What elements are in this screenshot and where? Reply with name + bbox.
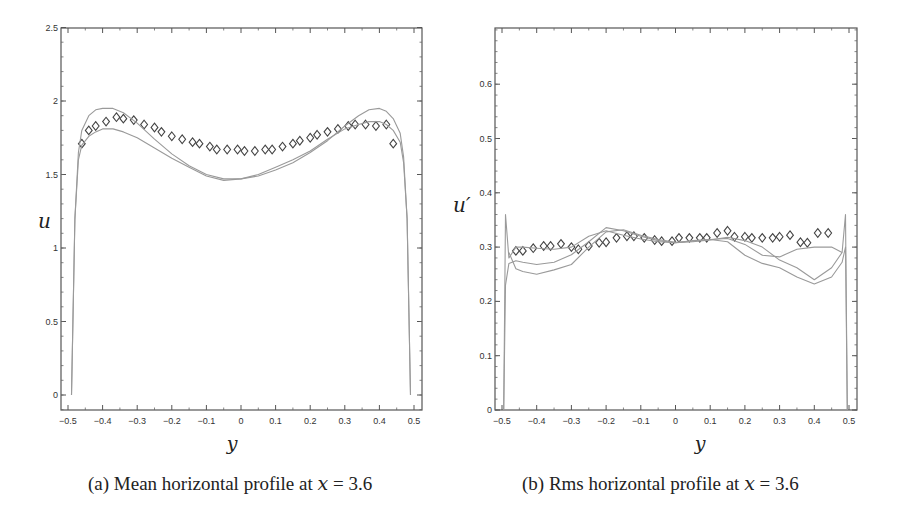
y-tick-label: 2 [53,96,58,106]
diamond-marker [290,139,297,148]
x-tick-label: −0.5 [493,416,511,426]
diamond-marker [120,114,127,123]
diamond-marker [85,126,92,135]
x-tick-label: 0.5 [408,416,421,426]
x-axis-label: y [694,432,706,454]
diamond-marker [373,122,380,131]
diamond-marker [519,247,526,256]
x-tick-label: 0 [238,416,243,426]
y-tick-label: 0.4 [479,188,492,198]
x-tick-label: 0.5 [843,416,856,426]
simulation-curve [504,215,848,411]
diamond-marker [113,113,120,122]
diamond-marker [241,147,248,156]
diamond-marker [307,133,314,142]
plot-frame [61,28,422,410]
diamond-marker [724,227,731,236]
diamond-marker [314,131,321,140]
x-axis-label: y [226,432,238,454]
diamond-marker [92,122,99,131]
diamond-marker [269,145,276,154]
diamond-marker [748,234,755,243]
x-tick-label: 0 [673,416,678,426]
y-tick-label: 0.2 [479,296,492,306]
diamond-marker [787,231,794,240]
diamond-marker [603,238,610,247]
diamond-marker [206,142,213,151]
diamond-marker [759,234,766,243]
caption-a-value: = 3.6 [328,473,372,494]
x-tick-label: −0.1 [198,416,216,426]
caption-b-var: x [744,472,755,494]
diamond-marker [168,132,175,141]
x-tick-label: −0.5 [59,416,77,426]
y-tick-label: 0.6 [479,79,492,89]
diamond-marker [179,135,186,144]
x-tick-label: 0.1 [704,416,717,426]
diamond-marker [224,145,231,154]
x-tick-label: 0.3 [339,416,352,426]
diamond-marker [804,238,811,247]
x-tick-label: −0.1 [632,416,650,426]
x-tick-label: 0.4 [373,416,386,426]
experimental-markers [78,113,396,155]
diamond-marker [558,240,565,249]
x-tick-label: 0.4 [808,416,821,426]
simulation-curve [72,122,411,395]
chart-panel-a: 00.511.522.5−0.5−0.4−0.3−0.2−0.100.10.20… [0,0,450,513]
caption-b-value: = 3.6 [755,473,799,494]
x-tick-label: −0.3 [563,416,581,426]
diamond-marker [797,238,804,247]
diamond-marker [196,139,203,148]
experimental-markers [512,227,831,256]
x-tick-label: −0.2 [597,416,615,426]
caption-a-text: (a) Mean horizontal profile at [88,473,317,494]
chart-panel-b: 00.10.20.30.40.50.6−0.5−0.4−0.3−0.2−0.10… [450,0,900,513]
x-tick-label: −0.4 [528,416,546,426]
diamond-marker [776,232,783,241]
y-tick-label: 2.5 [45,23,58,33]
x-tick-label: −0.3 [128,416,146,426]
y-axis-label: u′ [453,193,471,217]
simulation-curve [504,228,848,410]
diamond-marker [262,145,269,154]
x-tick-label: −0.4 [94,416,112,426]
x-tick-label: 0.2 [304,416,317,426]
diamond-marker [814,229,821,238]
x-tick-label: 0.3 [773,416,786,426]
diamond-marker [296,136,303,145]
diamond-marker [189,138,196,147]
y-tick-label: 0.5 [45,317,58,327]
caption-b: (b) Rms horizontal profile at x = 3.6 [522,472,799,495]
caption-a-var: x [317,472,328,494]
mean-profile-chart: 00.511.522.5−0.5−0.4−0.3−0.2−0.100.10.20… [0,0,450,513]
diamond-marker [151,123,158,132]
y-tick-label: 0.1 [479,351,492,361]
diamond-marker [825,229,832,238]
diamond-marker [613,234,620,243]
y-tick-label: 0 [53,390,58,400]
diamond-marker [769,234,776,243]
y-tick-label: 0 [487,405,492,415]
diamond-marker [103,117,110,126]
y-axis-label: u [38,209,51,233]
x-tick-label: 0.2 [739,416,752,426]
diamond-marker [714,229,721,238]
y-tick-label: 0.3 [479,242,492,252]
diamond-marker [390,139,397,148]
diamond-marker [234,145,241,154]
ticks: 00.511.522.5−0.5−0.4−0.3−0.2−0.100.10.20… [45,23,422,427]
caption-a: (a) Mean horizontal profile at x = 3.6 [88,472,372,495]
ticks: 00.10.20.30.40.50.6−0.5−0.4−0.3−0.2−0.10… [479,28,857,426]
caption-b-text: (b) Rms horizontal profile at [522,473,744,494]
y-tick-label: 1 [53,243,58,253]
plot-frame [495,28,857,410]
y-tick-label: 0.5 [479,134,492,144]
x-tick-label: −0.2 [163,416,181,426]
diamond-marker [158,128,165,137]
rms-profile-chart: 00.10.20.30.40.50.6−0.5−0.4−0.3−0.2−0.10… [450,0,900,513]
y-tick-label: 1.5 [45,170,58,180]
diamond-marker [251,147,258,156]
diamond-marker [324,128,331,137]
x-tick-label: 0.1 [269,416,282,426]
